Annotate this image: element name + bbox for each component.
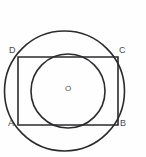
center-label-o: O (65, 85, 71, 93)
vertex-label-a: A (8, 119, 14, 128)
vertex-label-c: C (119, 46, 126, 55)
vertex-label-d: D (9, 46, 16, 55)
geometry-figure: D C A B O (0, 0, 146, 157)
vertex-label-b: B (120, 119, 126, 128)
geometry-canvas (0, 0, 146, 157)
